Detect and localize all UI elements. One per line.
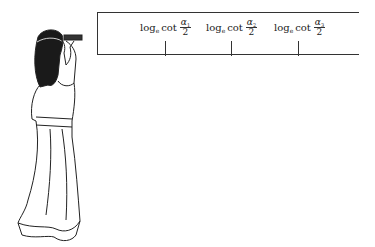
tick-mark-3 xyxy=(298,41,299,56)
fraction: α1 2 xyxy=(180,18,191,37)
tick-mark-1 xyxy=(165,41,166,56)
woman-with-telescope-illustration xyxy=(0,25,110,247)
alpha: α xyxy=(181,17,187,27)
alpha: α xyxy=(315,17,321,27)
cot-text: cot xyxy=(227,22,243,33)
alpha-sub: 2 xyxy=(253,22,256,28)
log-text: log xyxy=(274,22,290,33)
cot-text: cot xyxy=(161,22,177,33)
log-base: e xyxy=(156,27,160,34)
log-text: log xyxy=(140,22,156,33)
label-3: loge cot α3 2 xyxy=(274,18,325,37)
tick-mark-2 xyxy=(231,41,232,56)
cot-text: cot xyxy=(295,22,311,33)
label-2: loge cot α2 2 xyxy=(206,18,257,37)
denominator: 2 xyxy=(317,28,323,37)
denominator: 2 xyxy=(183,28,189,37)
fraction: α2 2 xyxy=(246,18,257,37)
denominator: 2 xyxy=(249,28,255,37)
log-base: e xyxy=(290,27,294,34)
alpha: α xyxy=(247,17,253,27)
log-base: e xyxy=(222,27,226,34)
label-1: loge cot α1 2 xyxy=(140,18,191,37)
alpha-sub: 3 xyxy=(321,22,324,28)
log-text: log xyxy=(206,22,222,33)
alpha-sub: 1 xyxy=(187,22,190,28)
number-line-board: loge cot α1 2 loge cot α2 2 loge cot α3 … xyxy=(97,12,359,55)
fraction: α3 2 xyxy=(314,18,325,37)
